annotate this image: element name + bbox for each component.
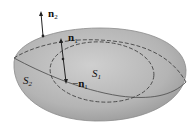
normal-vector-n2: [39, 11, 44, 37]
diagram-canvas: n2 n1 −n1 S1 S2: [0, 0, 192, 129]
label-n2: n2: [48, 7, 58, 21]
ellipsoid-diagram: n2 n1 −n1 S1 S2: [0, 0, 192, 129]
